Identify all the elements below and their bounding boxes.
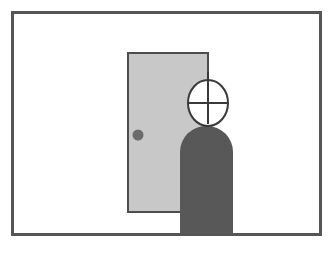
illustration-canvas xyxy=(0,0,333,259)
doorknob xyxy=(133,130,144,141)
scene-svg xyxy=(0,0,333,259)
person-body-base xyxy=(180,152,233,242)
